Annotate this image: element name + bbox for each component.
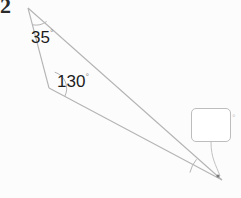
middle-angle-label: 130°: [57, 73, 89, 90]
bottom-right-vertex-marker: [216, 174, 219, 177]
triangle-side-hypotenuse: [28, 8, 222, 180]
answer-degree-symbol: °: [232, 113, 236, 123]
answer-input-box[interactable]: [191, 108, 231, 142]
triangle-side-left: [28, 8, 49, 88]
geometry-figure-canvas: 2 35° 130° °: [0, 0, 241, 198]
apex-angle-value: 35: [31, 28, 50, 47]
apex-angle-label: 35°: [31, 29, 54, 46]
answer-input[interactable]: [192, 109, 230, 141]
middle-angle-value: 130: [57, 72, 85, 91]
apex-angle-degree-symbol: °: [50, 28, 54, 38]
middle-angle-degree-symbol: °: [85, 72, 89, 82]
